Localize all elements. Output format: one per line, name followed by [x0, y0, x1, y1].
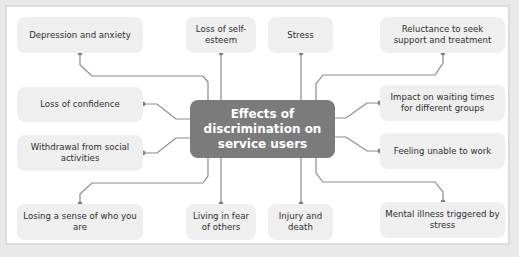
- node-label: Living in fear of others: [190, 211, 252, 233]
- node-label: Withdrawal from social activities: [21, 142, 139, 164]
- node-label: Injury and death: [272, 211, 329, 233]
- node-label: Loss of confidence: [40, 99, 120, 110]
- node-withdrawal-social: Withdrawal from social activities: [17, 135, 143, 171]
- node-label: Reluctance to seek support and treatment: [384, 24, 501, 46]
- node-living-in-fear: Living in fear of others: [186, 204, 256, 240]
- node-label: Loss of self-esteem: [190, 24, 252, 46]
- center-title-line-3: service users: [204, 137, 322, 152]
- node-label: Impact on waiting times for different gr…: [384, 92, 501, 114]
- node-impact-waiting-times: Impact on waiting times for different gr…: [380, 85, 505, 121]
- node-reluctance-support: Reluctance to seek support and treatment: [380, 17, 505, 53]
- node-label: Depression and anxiety: [29, 30, 131, 41]
- center-topic: Effects of discrimination on service use…: [190, 100, 335, 158]
- node-depression-anxiety: Depression and anxiety: [17, 17, 143, 53]
- node-label: Losing a sense of who you are: [21, 211, 139, 233]
- center-title-line-1: Effects of: [204, 107, 322, 122]
- center-title-line-2: discrimination on: [204, 122, 322, 137]
- node-loss-confidence: Loss of confidence: [17, 87, 143, 122]
- node-stress: Stress: [268, 17, 333, 53]
- node-label: Mental illness triggered by stress: [384, 209, 501, 231]
- node-loss-self-esteem: Loss of self-esteem: [186, 17, 256, 53]
- node-feeling-unable-work: Feeling unable to work: [380, 133, 505, 169]
- node-label: Stress: [287, 30, 313, 41]
- node-mental-illness-stress: Mental illness triggered by stress: [380, 202, 505, 238]
- node-losing-sense-self: Losing a sense of who you are: [17, 204, 143, 240]
- node-label: Feeling unable to work: [394, 146, 492, 157]
- node-injury-death: Injury and death: [268, 204, 333, 240]
